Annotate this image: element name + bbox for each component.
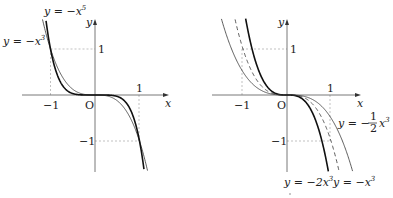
- tick-xneg1-left: −1: [43, 99, 59, 112]
- tick-y1-left: 1: [98, 43, 105, 56]
- x-axis-label-left: x: [165, 97, 172, 110]
- label-neg-x5-left: y = −x5: [43, 4, 87, 18]
- y-axis-arrow-icon: [285, 19, 289, 25]
- tick-x1-left: 1: [136, 82, 143, 95]
- x-axis-label-right: x: [357, 97, 364, 110]
- svg-text:y = −: y = −: [337, 117, 370, 130]
- figure: x y O −1 1 1 −1 y = −x3 y = −x5 x y O −1…: [0, 0, 393, 198]
- y-axis-label-right: y: [277, 16, 285, 29]
- svg-text:2: 2: [370, 122, 377, 135]
- tick-yneg1-left: −1: [79, 135, 95, 148]
- y-axis-label-left: y: [85, 16, 93, 29]
- origin-label-left: O: [85, 99, 94, 112]
- tick-yneg1-right: −1: [271, 135, 287, 148]
- label-neg-x3-left: y = −x3: [2, 34, 46, 48]
- label-neg-half-x3-right: y = − 1 2 x3: [337, 110, 390, 135]
- right-graph-panel: x y O −1 1 1 −1 y = −2x3 y = −x3 y = − 1…: [212, 16, 390, 189]
- svg-text:x3: x3: [379, 116, 390, 130]
- label-neg-x3-right: y = −x3: [332, 175, 376, 189]
- tick-y1-right: 1: [290, 43, 297, 56]
- y-axis-arrow-icon: [93, 19, 97, 25]
- left-graph-panel: x y O −1 1 1 −1 y = −x3 y = −x5: [2, 4, 172, 172]
- tick-xneg1-right: −1: [234, 99, 250, 112]
- origin-label-right: O: [277, 99, 286, 112]
- stray-dot: [289, 193, 290, 194]
- tick-x1-right: 1: [327, 82, 334, 95]
- label-neg-2x3-right: y = −2x3: [283, 175, 334, 189]
